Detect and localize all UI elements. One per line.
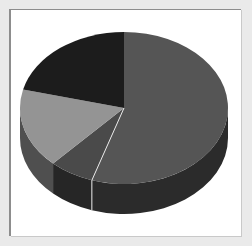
pie-chart (11, 10, 242, 237)
pie-top-faces (20, 32, 228, 184)
pie-chart-svg (11, 10, 242, 237)
chart-screenshot (0, 0, 252, 246)
